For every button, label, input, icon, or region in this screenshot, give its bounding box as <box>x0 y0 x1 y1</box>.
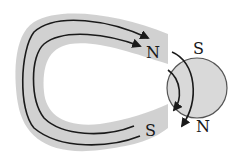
sphere <box>167 58 227 118</box>
magnet-diagram: N S S N <box>0 0 233 166</box>
magnet-north-label: N <box>146 43 160 62</box>
sphere-north-label: N <box>196 117 210 136</box>
sphere-south-label: S <box>193 39 204 58</box>
magnet-south-label: S <box>145 121 156 140</box>
